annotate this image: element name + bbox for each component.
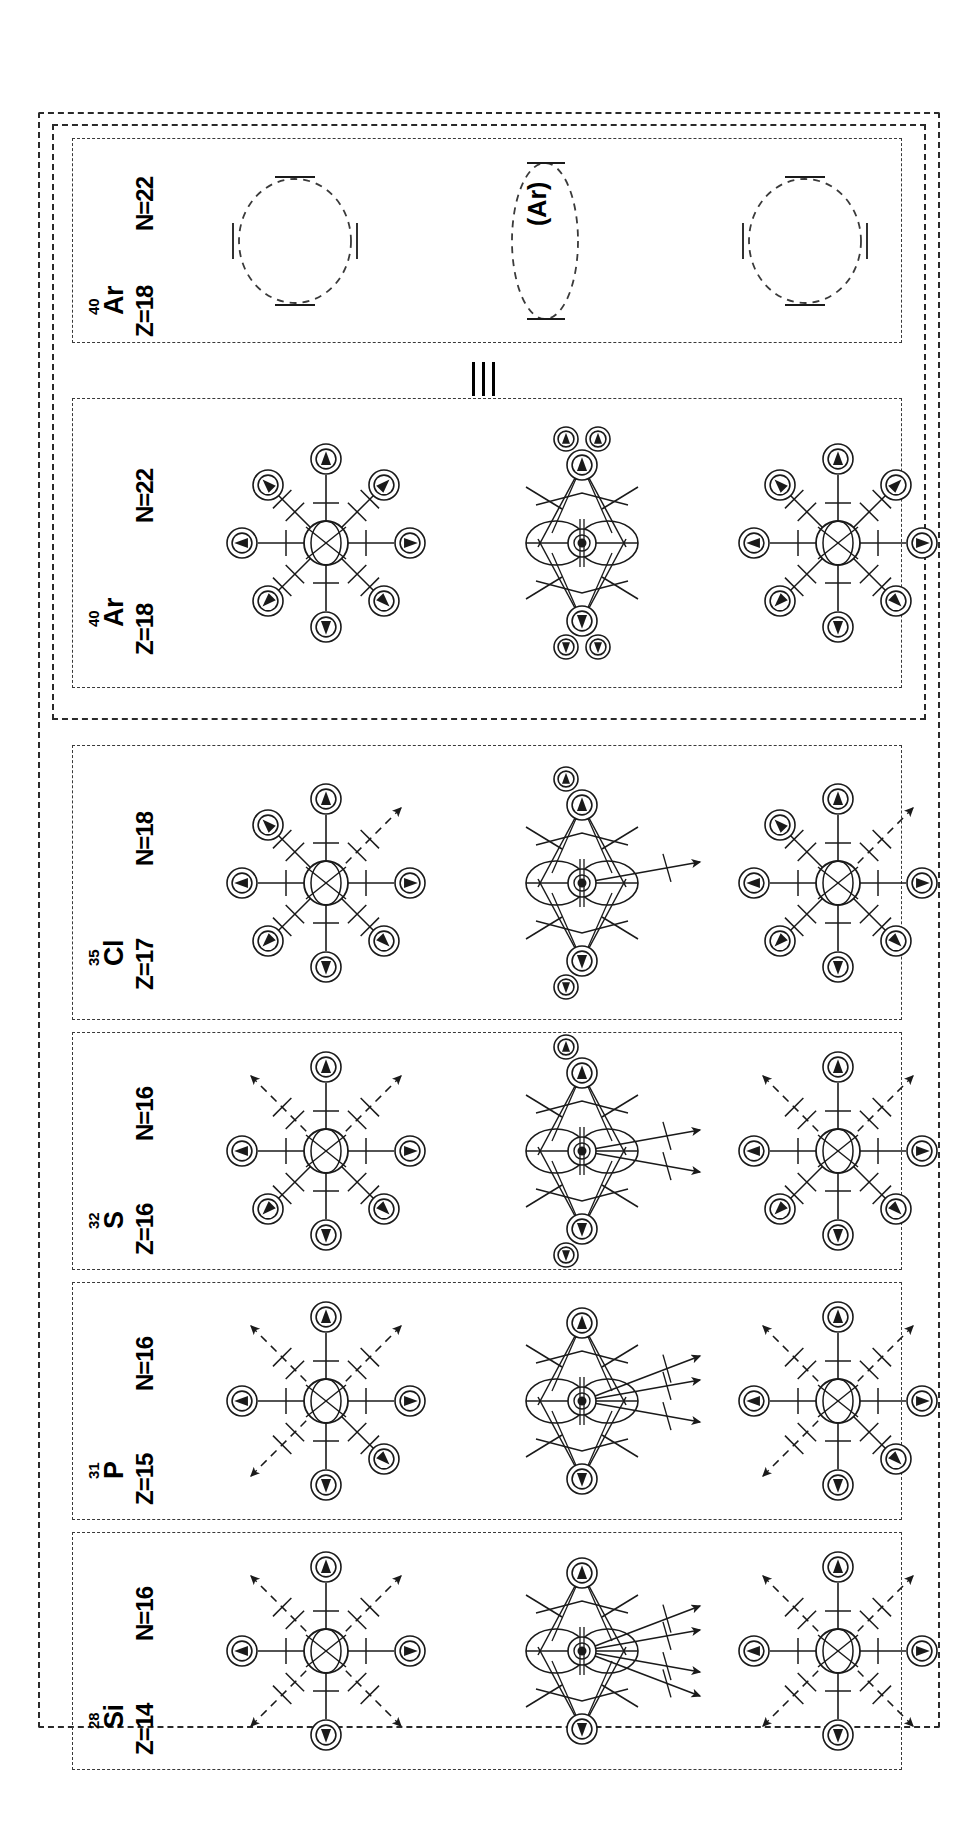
element-symbol: Si [99, 1704, 130, 1729]
panel-label-ar40-schematic: 40 Ar Z=18 N=22 [79, 139, 163, 342]
diagram-row-cl35 [165, 746, 895, 1019]
center-label-ar: (Ar) [523, 182, 552, 226]
mass-number: 35 [85, 949, 102, 966]
panel-label-ar40-detailed: 40 Ar Z=18 N=22 [79, 399, 163, 687]
mass-number: 40 [85, 610, 102, 627]
diagram-dashed-circle-right [725, 161, 885, 321]
diagram-collapsed-center [457, 1526, 707, 1776]
identical-to-icon [468, 362, 502, 396]
mass-number: 40 [85, 298, 102, 315]
neutron-number: N=16 [131, 1087, 159, 1141]
proton-number: Z=18 [131, 604, 159, 655]
diagram-row-ar40-detailed [165, 399, 895, 687]
panel-label-p31: 31 P Z=15 N=16 [79, 1283, 163, 1519]
diagram-row-s32 [165, 1033, 895, 1269]
diagram-collapsed-center [457, 418, 707, 668]
diagram-sunburst-right [713, 1526, 963, 1776]
diagram-row-p31 [165, 1283, 895, 1519]
diagram-sunburst-right [713, 758, 963, 1008]
diagram-sunburst-left [201, 1276, 451, 1526]
neutron-number: N=16 [131, 1337, 159, 1391]
neutron-number: N=22 [131, 177, 159, 231]
panel-p31: 31 P Z=15 N=16 [72, 1282, 902, 1520]
mass-number: 28 [85, 1712, 102, 1729]
panel-label-cl35: 35 Cl Z=17 N=18 [79, 746, 163, 1019]
proton-number: Z=17 [131, 939, 159, 990]
figure-canvas: 40 Ar Z=18 N=22 [0, 0, 969, 1827]
neutron-number: N=16 [131, 1587, 159, 1641]
diagram-collapsed-center [457, 758, 707, 1008]
mass-number: 32 [85, 1212, 102, 1229]
diagram-collapsed-center [457, 1026, 707, 1276]
element-symbol: Ar [99, 286, 130, 315]
mass-number: 31 [85, 1462, 102, 1479]
proton-number: Z=14 [131, 1704, 159, 1755]
element-symbol: P [99, 1461, 130, 1479]
panel-s32: 32 S Z=16 N=16 [72, 1032, 902, 1270]
panel-label-si28: 28 Si Z=14 N=16 [79, 1533, 163, 1769]
neutron-number: N=18 [131, 812, 159, 866]
panel-si28: 28 Si Z=14 N=16 [72, 1532, 902, 1770]
diagram-sunburst-left [201, 418, 451, 668]
proton-number: Z=16 [131, 1204, 159, 1255]
diagram-sunburst-left [201, 1526, 451, 1776]
diagram-collapsed-center [457, 1276, 707, 1526]
panel-ar40-detailed: 40 Ar Z=18 N=22 [72, 398, 902, 688]
element-symbol: Ar [99, 598, 130, 627]
panel-label-s32: 32 S Z=16 N=16 [79, 1033, 163, 1269]
element-symbol: S [99, 1211, 130, 1229]
proton-number: Z=15 [131, 1454, 159, 1505]
panel-ar40-schematic: 40 Ar Z=18 N=22 [72, 138, 902, 343]
diagram-sunburst-left [201, 758, 451, 1008]
diagram-sunburst-right [713, 418, 963, 668]
diagram-dashed-circle-left [215, 161, 375, 321]
element-symbol: Cl [99, 940, 130, 966]
neutron-number: N=22 [131, 469, 159, 523]
diagram-row-si28 [165, 1533, 895, 1769]
diagram-row-ar40-schematic: (Ar) [165, 139, 895, 342]
diagram-dashed-ellipse-center: (Ar) [465, 151, 625, 331]
panel-cl35: 35 Cl Z=17 N=18 [72, 745, 902, 1020]
diagram-sunburst-right [713, 1026, 963, 1276]
proton-number: Z=18 [131, 286, 159, 337]
diagram-sunburst-right [713, 1276, 963, 1526]
diagram-sunburst-left [201, 1026, 451, 1276]
